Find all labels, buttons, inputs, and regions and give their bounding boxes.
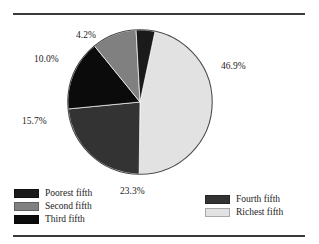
pie-slice-group [68, 30, 212, 174]
legend-right-column: Fourth fifth Richest fifth [205, 193, 283, 218]
top-rule [13, 13, 305, 15]
legend-swatch-fourth-fifth [205, 195, 230, 204]
slice-label-richest-fifth: 46.9% [221, 62, 246, 72]
legend-item-poorest-fifth: Poorest fifth [14, 187, 92, 199]
legend-swatch-richest-fifth [205, 208, 230, 217]
legend-label-second-fifth: Second fifth [45, 201, 92, 212]
legend-item-fourth-fifth: Fourth fifth [205, 193, 283, 205]
legend-item-third-fifth: Third fifth [14, 213, 92, 225]
legend-left-column: Poorest fifth Second fifth Third fifth [14, 187, 92, 225]
slice-label-fourth-fifth: 23.3% [120, 187, 145, 197]
pie-svg [66, 28, 214, 176]
figure-container: 46.9% 23.3% 15.7% 10.0% 4.2% Poorest fif… [0, 0, 319, 244]
legend-label-poorest-fifth: Poorest fifth [45, 188, 92, 199]
bottom-rule [13, 235, 305, 237]
legend-item-richest-fifth: Richest fifth [205, 206, 283, 218]
legend-swatch-second-fifth [14, 202, 39, 211]
legend-label-third-fifth: Third fifth [45, 214, 85, 225]
pie-chart [66, 28, 214, 176]
legend-label-fourth-fifth: Fourth fifth [236, 194, 280, 205]
slice-label-third-fifth: 15.7% [22, 117, 47, 127]
legend-swatch-poorest-fifth [14, 189, 39, 198]
slice-label-poorest-fifth: 4.2% [76, 31, 96, 41]
legend-swatch-third-fifth [14, 215, 39, 224]
legend-label-richest-fifth: Richest fifth [236, 207, 283, 218]
pie-slice-fourth-fifth[interactable] [68, 102, 140, 174]
slice-label-second-fifth: 10.0% [34, 55, 59, 65]
legend-item-second-fifth: Second fifth [14, 200, 92, 212]
